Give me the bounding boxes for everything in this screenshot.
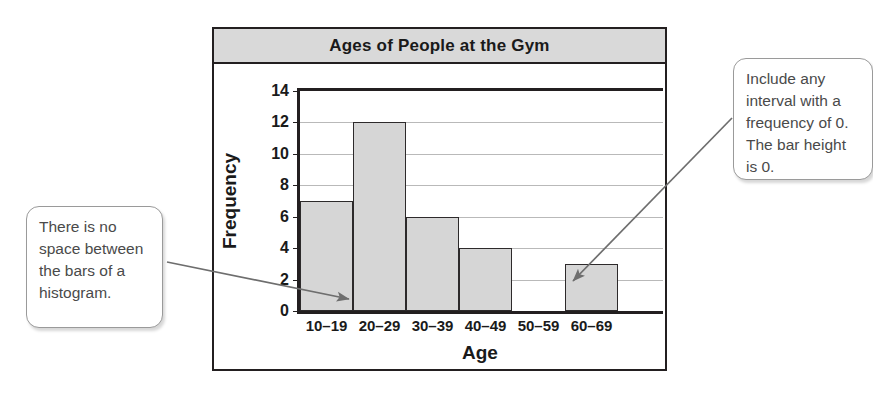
callout-left: There is no space between the bars of a … <box>26 206 163 328</box>
y-axis-tick-label: 0 <box>280 302 289 320</box>
y-axis-title: Frequency <box>219 153 241 249</box>
y-axis-tick <box>293 185 300 186</box>
x-axis-tick-label: 20–29 <box>359 317 401 334</box>
callout-right: Include any interval with a frequency of… <box>733 58 873 180</box>
y-axis-tick-label: 8 <box>280 176 289 194</box>
x-axis-tick-label: 50–59 <box>518 317 560 334</box>
y-axis-tick-label: 10 <box>271 145 289 163</box>
x-axis-tick-label: 40–49 <box>465 317 507 334</box>
bar <box>300 201 353 311</box>
y-axis-tick-label: 2 <box>280 271 289 289</box>
page-title: Ages of People at the Gym <box>329 36 549 56</box>
plot-area: 02468101214 10–1920–2930–3940–4950–5960–… <box>297 88 663 314</box>
histogram-panel: Ages of People at the Gym Frequency 0246… <box>212 27 667 371</box>
bar <box>565 264 618 311</box>
y-axis-tick-label: 4 <box>280 239 289 257</box>
plot-wrapper: Frequency 02468101214 10–1920–2930–3940–… <box>214 64 665 369</box>
bar <box>459 248 512 311</box>
y-axis-tick-label: 6 <box>280 208 289 226</box>
chart-title-bar: Ages of People at the Gym <box>214 29 665 64</box>
x-axis-tick-label: 60–69 <box>571 317 613 334</box>
x-axis-tick-label: 10–19 <box>306 317 348 334</box>
y-axis-tick-label: 14 <box>271 82 289 100</box>
callout-right-text: Include any interval with a frequency of… <box>746 70 849 175</box>
y-axis-tick-label: 12 <box>271 113 289 131</box>
bar <box>406 217 459 311</box>
y-axis-tick <box>293 217 300 218</box>
callout-left-text: There is no space between the bars of a … <box>39 218 143 301</box>
y-axis-tick <box>293 91 300 92</box>
bar <box>353 122 406 311</box>
y-axis-tick <box>293 280 300 281</box>
y-axis-tick <box>293 122 300 123</box>
x-axis-title: Age <box>297 342 663 364</box>
y-axis-tick <box>293 248 300 249</box>
y-axis-tick <box>293 154 300 155</box>
y-axis-tick <box>293 311 300 312</box>
x-axis-tick-label: 30–39 <box>412 317 454 334</box>
